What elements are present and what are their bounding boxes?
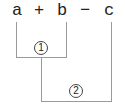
bracket-2-bottom (41, 101, 112, 102)
minus-operator: − (80, 2, 90, 20)
operand-b: b (57, 2, 67, 20)
step-2-marker: 2 (69, 84, 83, 98)
step-1-marker: 1 (34, 41, 48, 55)
bracket-2-right (111, 22, 112, 102)
plus-operator: + (34, 2, 44, 20)
bracket-1-left (16, 22, 17, 58)
operand-a: a (12, 2, 22, 20)
bracket-1-right (66, 22, 67, 58)
operand-c: c (104, 2, 114, 20)
bracket-2-left (41, 57, 42, 102)
